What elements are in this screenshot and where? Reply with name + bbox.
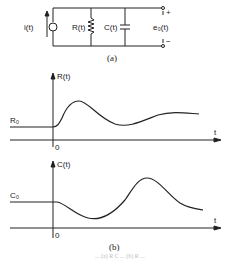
- c-x-label: t: [214, 216, 217, 225]
- c-curve: [10, 178, 203, 219]
- source-label: i(t): [24, 23, 34, 32]
- r-initial-level: R₀: [10, 116, 19, 125]
- c-x-arrow-icon: [214, 226, 221, 230]
- r-origin: 0: [55, 143, 60, 152]
- c-initial-level: C₀: [10, 191, 19, 200]
- r-y-arrow-icon: [51, 73, 55, 79]
- capacitor-label: C(t): [104, 23, 118, 32]
- plus-sign: +: [166, 8, 171, 17]
- plot-c: [10, 161, 221, 238]
- output-label: e₀(t): [153, 23, 169, 32]
- caption-a: (a): [107, 53, 117, 63]
- r-y-label: R(t): [57, 72, 71, 81]
- current-source-icon: [49, 23, 57, 31]
- caption-b: (b): [109, 242, 120, 252]
- plot-r: [10, 73, 221, 147]
- r-curve: [10, 101, 199, 127]
- minus-sign: −: [166, 37, 171, 46]
- r-x-arrow-icon: [214, 138, 221, 142]
- resistor-icon: [88, 18, 94, 34]
- figure: i(t) R(t) C(t) e₀(t) + − (a) R(t) t 0 R₀…: [0, 0, 237, 259]
- c-origin: 0: [55, 231, 60, 240]
- terminal-minus-icon: [162, 45, 165, 48]
- c-y-arrow-icon: [51, 161, 55, 167]
- r-x-label: t: [214, 128, 217, 137]
- c-y-label: C(t): [57, 160, 71, 169]
- terminal-plus-icon: [162, 7, 165, 10]
- resistor-label: R(t): [72, 23, 86, 32]
- footer-faint-text: ... (a) R C ... (b) R ...: [95, 253, 145, 259]
